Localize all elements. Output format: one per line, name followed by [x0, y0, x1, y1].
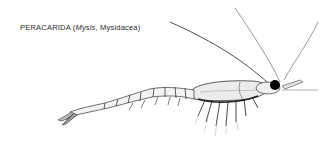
- right-antenna: [284, 22, 318, 80]
- leg-setae: [195, 112, 238, 136]
- upper-antenna: [235, 8, 280, 82]
- figure: PERACARIDA (Mysis, Mysidacea): [0, 0, 331, 141]
- eye: [270, 80, 280, 90]
- mysid-shrimp-drawing-icon: [0, 0, 331, 141]
- long-antenna: [170, 22, 268, 83]
- antennal-scale: [282, 80, 303, 89]
